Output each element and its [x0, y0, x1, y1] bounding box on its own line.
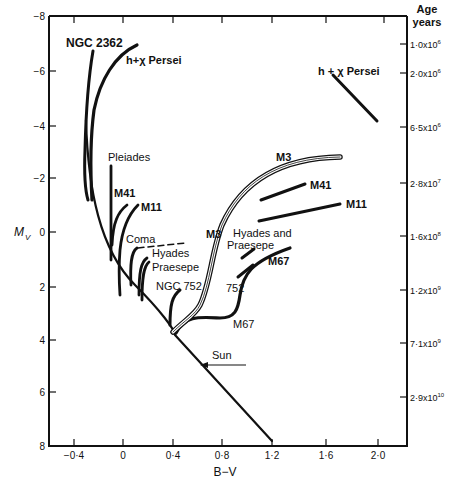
age-tick-label: 2·9x1010 [410, 392, 445, 403]
x-tick-label: 1·6 [319, 450, 334, 461]
y-tick-label: −4 [34, 121, 46, 132]
x-tick-label: 2·0 [371, 450, 386, 461]
x-axis-label: B−V [213, 465, 236, 479]
y-axis-ticks [49, 71, 56, 392]
label-m11-giants: M11 [346, 198, 367, 210]
age-axis-labels: 1·0x106 2·0x106 6·5x106 2·8x107 1·6x108 … [410, 39, 445, 403]
h-chi-persei-curve [91, 45, 137, 200]
label-m11: M11 [141, 201, 162, 213]
y-tick-label: 6 [39, 387, 45, 398]
age-axis-title: Age [417, 3, 438, 15]
label-m67-upper: M67 [268, 255, 289, 267]
label-ngc2362: NGC 2362 [66, 36, 123, 50]
label-m41: M41 [114, 187, 135, 199]
label-praesepe-giants: Praesepe [227, 239, 274, 251]
coma-curve [131, 248, 137, 285]
age-tick-label: 1·0x106 [410, 39, 442, 50]
age-tick-label: 7·1x109 [410, 338, 442, 349]
age-tick-label: 6·5x106 [410, 122, 442, 133]
y-label-main: M [14, 225, 24, 239]
top-ticks [74, 16, 384, 23]
age-tick-label: 1·6x108 [410, 231, 442, 242]
y-tick-label: 4 [39, 335, 45, 346]
x-tick-label: 0 [120, 450, 126, 461]
x-axis-ticks [74, 439, 378, 446]
label-pleiades: Pleiades [108, 151, 151, 163]
label-m3-mid: M3 [206, 228, 221, 240]
label-ngc752: NGC 752 [156, 280, 202, 292]
h-chi-persei-giants [333, 75, 377, 121]
y-tick-label: 0 [39, 227, 45, 238]
y-label-sub: V [25, 233, 31, 242]
age-tick-label: 2·8x107 [410, 178, 442, 189]
label-h-chi-persei-giants: h + χ Persei [318, 65, 380, 77]
label-m41-giants: M41 [310, 179, 331, 191]
x-axis-tick-labels: −0·4 0 0·4 0·8 1·2 1·6 2·0 [64, 450, 386, 461]
hr-diagram: −0·4 0 0·4 0·8 1·2 1·6 2·0 B−V −8 −6 −4 … [0, 0, 460, 486]
age-axis-unit: years [413, 16, 442, 28]
y-tick-label: −8 [34, 11, 46, 22]
y-axis-tick-labels: −8 −6 −4 −2 0 2 4 6 8 [34, 11, 46, 452]
x-tick-label: 0·4 [166, 450, 181, 461]
age-tick-label: 2·0x106 [410, 68, 442, 79]
label-coma: Coma [126, 233, 156, 245]
cluster-labels: NGC 2362 h+χ Persei h + χ Persei Pleiade… [66, 36, 380, 330]
label-m3-top: M3 [276, 151, 291, 163]
label-hyades: Hyades [152, 247, 190, 259]
y-tick-label: −2 [34, 173, 46, 184]
y-tick-label: −6 [34, 66, 46, 77]
y-axis-label: M V [14, 225, 31, 242]
label-hyades-and: Hyades and [233, 227, 292, 239]
sun-label: Sun [212, 349, 232, 361]
x-tick-label: 0·8 [215, 450, 230, 461]
x-tick-label: 1·2 [265, 450, 280, 461]
ngc752-curve [170, 290, 180, 325]
m41-giants [261, 184, 305, 200]
x-tick-label: −0·4 [64, 450, 85, 461]
m11-giants [259, 204, 340, 221]
label-h-chi-persei: h+χ Persei [126, 54, 182, 66]
y-tick-label: 2 [39, 282, 45, 293]
age-tick-label: 1·2x109 [410, 285, 442, 296]
label-praesepe: Praesepe [152, 261, 199, 273]
label-752: 752 [226, 282, 244, 294]
y-tick-label: 8 [39, 441, 45, 452]
age-axis-ticks [400, 44, 407, 397]
label-m67-lower: M67 [233, 318, 254, 330]
sun-marker: Sun [200, 349, 246, 368]
